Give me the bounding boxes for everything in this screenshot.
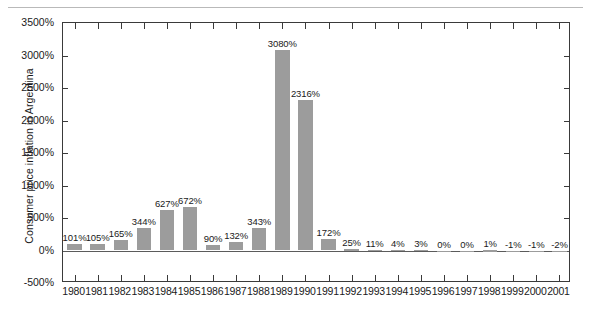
bar <box>229 242 243 251</box>
x-tick-label: 1984 <box>155 285 178 297</box>
x-tick-label: 2000 <box>524 285 547 297</box>
bar <box>67 244 81 251</box>
bar-value-label: 2316% <box>290 88 321 99</box>
y-tick-label: 1500% <box>21 146 54 158</box>
bar <box>160 210 174 251</box>
bar <box>252 228 266 250</box>
x-tick-label: 1999 <box>501 285 524 297</box>
x-tick-label: 1980 <box>62 285 85 297</box>
bar <box>90 244 104 251</box>
inflation-bar-chart: Consumer price inflation in Argentina 35… <box>0 0 591 309</box>
bar <box>344 249 358 251</box>
bar-value-label: 672% <box>174 195 205 206</box>
bar <box>414 250 428 251</box>
x-tick-label: 1994 <box>386 285 409 297</box>
y-tick-label: 500% <box>27 211 54 223</box>
bar <box>206 245 220 251</box>
y-axis-tick-labels: 3500%3000%2500%2000%1500%1000%500%0%-500… <box>0 22 58 282</box>
bar <box>275 50 289 250</box>
x-tick-label: 1982 <box>108 285 131 297</box>
x-tick-label: 1981 <box>85 285 108 297</box>
bar <box>391 250 405 251</box>
bar <box>529 251 543 252</box>
bar <box>437 251 451 252</box>
x-tick-label: 1998 <box>478 285 501 297</box>
x-tick-label: 1985 <box>178 285 201 297</box>
y-tick-label: 0% <box>39 244 54 256</box>
bar-value-label: 132% <box>221 230 252 241</box>
x-tick-label: 1983 <box>132 285 155 297</box>
plot-area: 101%105%165%344%627%672%90%132%343%3080%… <box>62 22 570 282</box>
bar <box>506 251 520 252</box>
bar-value-label: 3080% <box>267 38 298 49</box>
x-tick-label: 1992 <box>339 285 362 297</box>
bar-value-label: 343% <box>244 216 275 227</box>
bar-value-label: 165% <box>105 228 136 239</box>
x-tick-label: 1987 <box>224 285 247 297</box>
x-tick-label: 1990 <box>293 285 316 297</box>
y-tick-label: 1000% <box>21 179 54 191</box>
bar <box>114 240 128 251</box>
x-tick-label: 1989 <box>270 285 293 297</box>
y-tick-label: 3000% <box>21 49 54 61</box>
y-tick-label: 3500% <box>21 16 54 28</box>
bar-series: 101%105%165%344%627%672%90%132%343%3080%… <box>63 23 569 281</box>
bar <box>137 228 151 250</box>
x-tick-label: 1991 <box>316 285 339 297</box>
bar <box>552 251 566 252</box>
bar <box>298 100 312 251</box>
bar <box>368 250 382 251</box>
bar <box>483 250 497 251</box>
bar <box>460 251 474 252</box>
x-tick-label: 1997 <box>455 285 478 297</box>
y-tick-label: 2000% <box>21 114 54 126</box>
x-tick-label: 1996 <box>432 285 455 297</box>
y-tick-label: 2500% <box>21 81 54 93</box>
x-tick-label: 2001 <box>547 285 570 297</box>
x-tick-label: 1995 <box>409 285 432 297</box>
x-tick-label: 1993 <box>362 285 385 297</box>
bar-value-label: -2% <box>544 239 575 250</box>
x-axis-tick-labels: 1980198119821983198419851986198719881989… <box>62 285 570 305</box>
bar <box>183 207 197 251</box>
y-tick-label: -500% <box>24 276 54 288</box>
bar <box>321 239 335 250</box>
x-tick-label: 1988 <box>247 285 270 297</box>
bar-value-label: 344% <box>128 216 159 227</box>
x-tick-label: 1986 <box>201 285 224 297</box>
